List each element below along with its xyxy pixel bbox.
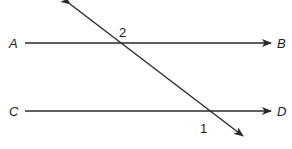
geometry-figure: A B C D 2 1 — [0, 0, 292, 149]
diagram-canvas: A B C D 2 1 — [0, 0, 292, 149]
point-label-c: C — [9, 104, 19, 119]
transversal-line — [70, 4, 243, 136]
point-label-a: A — [8, 36, 18, 51]
angle-label-1: 1 — [200, 121, 207, 136]
point-label-d: D — [277, 104, 286, 119]
angle-label-2: 2 — [119, 25, 126, 40]
point-label-b: B — [277, 36, 286, 51]
